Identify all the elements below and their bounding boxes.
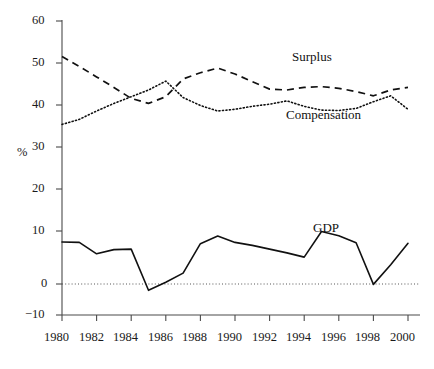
series-label-compensation: Compensation (286, 107, 361, 123)
plot-area (0, 0, 434, 369)
y-tick-label-20: 20 (32, 181, 45, 196)
y-tick-label-30: 30 (32, 139, 45, 154)
x-tick-label-1994: 1994 (286, 330, 311, 345)
y-tick-label-60: 60 (32, 13, 45, 28)
x-tick-label-1996: 1996 (321, 330, 346, 345)
series-line-gdp (62, 232, 408, 291)
y-tick-marks (56, 21, 62, 315)
y-axis-title: % (17, 145, 27, 160)
y-tick-label-10: 10 (32, 223, 45, 238)
x-tick-label-1988: 1988 (182, 330, 207, 345)
y-tick-label-50: 50 (32, 55, 45, 70)
x-tick-label-1998: 1998 (355, 330, 380, 345)
x-tick-label-1980: 1980 (44, 330, 69, 345)
x-tick-label-1990: 1990 (217, 330, 242, 345)
x-tick-label-1982: 1982 (79, 330, 104, 345)
x-tick-marks (62, 315, 408, 321)
y-tick-label-minus10: −10 (25, 307, 45, 322)
x-tick-label-1986: 1986 (148, 330, 173, 345)
y-tick-label-40: 40 (32, 97, 45, 112)
series-line-surplus (62, 56, 408, 103)
economic-indicators-line-chart: 60 50 40 30 20 10 0 −10 % 1980 1982 1984… (0, 0, 434, 369)
x-tick-label-1992: 1992 (252, 330, 277, 345)
y-tick-label-0: 0 (41, 276, 47, 291)
series-label-gdp: GDP (313, 220, 339, 236)
x-tick-label-1984: 1984 (113, 330, 138, 345)
series-label-surplus: Surplus (292, 49, 332, 65)
x-tick-label-2000: 2000 (390, 330, 415, 345)
